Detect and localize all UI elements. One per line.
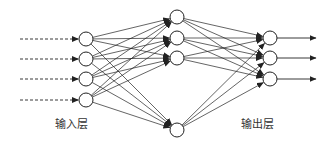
input-layer-label: 输入层 xyxy=(55,115,88,131)
connection xyxy=(182,43,265,125)
output-node-1 xyxy=(263,31,277,45)
connection xyxy=(92,82,170,126)
connection xyxy=(92,63,172,125)
connection xyxy=(92,21,171,75)
hidden-node-2 xyxy=(170,31,184,45)
hidden-node-3 xyxy=(170,51,184,65)
input-node-2 xyxy=(79,52,93,66)
hidden-node-4 xyxy=(170,123,184,137)
hidden-node-1 xyxy=(170,10,184,24)
input-node-1 xyxy=(79,32,93,46)
connection xyxy=(93,102,170,127)
connection xyxy=(183,41,263,76)
neural-network-diagram xyxy=(0,0,331,146)
input-node-4 xyxy=(79,93,93,107)
input-node-3 xyxy=(79,72,93,86)
output-node-3 xyxy=(263,72,277,86)
connection xyxy=(184,60,263,78)
connection xyxy=(92,42,171,96)
connection xyxy=(183,20,263,55)
connection xyxy=(184,19,263,37)
output-node-2 xyxy=(263,51,277,65)
output-layer-label: 输出层 xyxy=(241,115,274,131)
connection xyxy=(93,60,170,78)
